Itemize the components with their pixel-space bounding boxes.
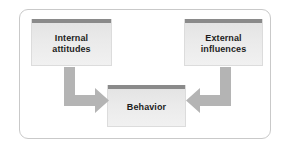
node-label-external-influences: External influences <box>198 33 250 55</box>
diagram-canvas: Internal attitudes External influences B… <box>0 0 288 148</box>
arrow-internal-to-behavior-icon <box>61 67 111 113</box>
node-label-internal-attitudes: Internal attitudes <box>49 33 93 55</box>
node-label-behavior: Behavior <box>124 102 169 113</box>
node-header-bar-internal-attitudes <box>32 19 111 23</box>
node-header-bar-external-influences <box>185 19 262 23</box>
arrow-external-to-behavior-icon <box>184 67 234 113</box>
node-behavior: Behavior <box>107 85 186 127</box>
node-header-bar-behavior <box>108 85 185 89</box>
node-internal-attitudes: Internal attitudes <box>31 19 112 66</box>
node-external-influences: External influences <box>184 19 263 66</box>
